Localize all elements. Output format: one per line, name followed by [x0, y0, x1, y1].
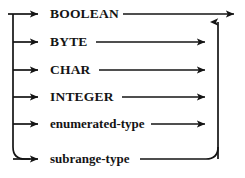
branch-label-subrange-type: subrange-type [50, 152, 129, 165]
branch-label-integer: INTEGER [50, 90, 114, 104]
branch-label-byte: BYTE [50, 35, 88, 49]
branch-label-char: CHAR [50, 63, 91, 77]
syntax-diagram: BOOLEAN BYTE CHAR INTEGER enumerated-typ… [0, 0, 245, 178]
left-trunk [13, 14, 30, 159]
branch-label-boolean: BOOLEAN [50, 7, 119, 21]
branch-label-enumerated-type: enumerated-type [50, 117, 145, 130]
branch-line-subrange-type-out [140, 147, 218, 159]
